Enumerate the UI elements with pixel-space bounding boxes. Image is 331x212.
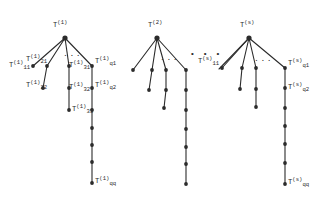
n-s-33	[254, 105, 258, 109]
n-1-11	[31, 64, 35, 68]
figure-canvas: T(1)...T(1)11T(1)21T(1)22T(1)31T(1)32T(1…	[0, 0, 331, 212]
tree-1-branch-ellipsis: ...	[63, 50, 82, 58]
n-2-q3	[184, 108, 188, 112]
n-s-q2	[283, 86, 287, 90]
n-s-11	[220, 66, 224, 70]
n-s-11-label: T(s)11	[198, 58, 219, 65]
tree-s-edge-to-n11	[219, 38, 249, 69]
n-s-q1	[283, 66, 287, 70]
n-1-q2	[90, 86, 94, 90]
tree-1-root-label: T(1)	[53, 22, 67, 29]
n-s-31	[254, 66, 258, 70]
n-1-33	[67, 108, 71, 112]
n-1-21-label: T(1)21	[26, 56, 47, 63]
n-s-q5	[283, 142, 287, 146]
n-2-qq	[184, 182, 188, 186]
n-s-q6	[283, 161, 287, 165]
n-2-q4	[184, 127, 188, 131]
n-2-q6	[184, 162, 188, 166]
n-2-q2	[184, 88, 188, 92]
n-2-q1	[184, 68, 188, 72]
tree-s-branch-ellipsis: ...	[254, 55, 273, 63]
n-2-22	[147, 88, 151, 92]
n-1-22-label: T(1)22	[26, 82, 47, 89]
n-1-q1	[90, 64, 94, 68]
n-2-21	[150, 68, 154, 72]
n-2-31	[164, 68, 168, 72]
n-s-21	[240, 66, 244, 70]
tree-diagram-svg	[0, 0, 331, 212]
n-s-32	[254, 87, 258, 91]
tree-2-edge-0	[133, 38, 157, 70]
tree-2-edge-6	[164, 90, 166, 108]
tree-2-root-label: T(2)	[148, 22, 162, 29]
tree-s-root-label: T(s)	[240, 22, 254, 29]
n-1-q5	[90, 143, 94, 147]
tree-s-root-node	[246, 35, 251, 40]
n-2-q5	[184, 145, 188, 149]
n-s-22	[238, 87, 242, 91]
tree-2-branch-ellipsis: ...	[160, 54, 179, 62]
n-1-q2-label: T(1)q2	[95, 82, 116, 89]
n-s-qq	[283, 182, 287, 186]
inter-tree-ellipsis: • • •	[190, 50, 222, 58]
tree-2-root-node	[154, 35, 159, 40]
n-s-q3	[283, 106, 287, 110]
n-1-q4	[90, 126, 94, 130]
n-1-32-label: T(1)32	[69, 84, 90, 91]
n-2-11	[131, 68, 135, 72]
n-1-qq	[90, 181, 94, 185]
tree-s-edge-4	[240, 68, 242, 89]
n-s-qq-label: T(s)qq	[288, 179, 309, 186]
n-1-33-label: T(1)33	[72, 106, 93, 113]
n-2-32	[164, 88, 168, 92]
n-s-q1-label: T(s)q1	[288, 60, 309, 67]
n-s-q2-label: T(s)q2	[288, 84, 309, 91]
n-2-33	[162, 106, 166, 110]
tree-1-root-node	[62, 35, 67, 40]
n-s-q4	[283, 124, 287, 128]
n-1-q6	[90, 160, 94, 164]
tree-2-edge-4	[149, 70, 152, 90]
n-1-31-label: T(1)31	[69, 62, 90, 69]
n-1-qq-label: T(1)qq	[95, 178, 116, 185]
n-1-q1-label: T(1)q1	[95, 58, 116, 65]
